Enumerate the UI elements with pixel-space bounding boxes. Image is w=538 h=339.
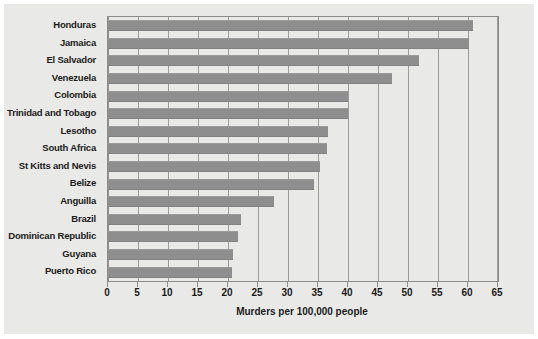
- category-label: Puerto Rico: [4, 262, 102, 280]
- x-axis-tick-labels: 05101520253035404550556065: [107, 288, 497, 302]
- category-axis-labels: HondurasJamaicaEl SalvadorVenezuelaColom…: [4, 16, 102, 280]
- bar-row: [108, 17, 498, 35]
- bar-row: [108, 246, 498, 264]
- category-label: Guyana: [4, 245, 102, 263]
- tick-label: 35: [311, 288, 322, 298]
- category-label: El Salvador: [4, 51, 102, 69]
- tick-label: 65: [491, 288, 502, 298]
- category-label: Colombia: [4, 86, 102, 104]
- category-label: Brazil: [4, 210, 102, 228]
- category-label: Lesotho: [4, 122, 102, 140]
- tick-label: 10: [161, 288, 172, 298]
- tick-label: 45: [371, 288, 382, 298]
- bar: [108, 179, 314, 190]
- bar-row: [108, 87, 498, 105]
- bar: [108, 108, 348, 119]
- bar: [108, 73, 392, 84]
- bar-row: [108, 140, 498, 158]
- tick-label: 30: [281, 288, 292, 298]
- tick-label: 50: [401, 288, 412, 298]
- bar-row: [108, 105, 498, 123]
- x-axis-title: Murders per 100,000 people: [107, 307, 497, 317]
- category-label: Anguilla: [4, 192, 102, 210]
- chart-panel: HondurasJamaicaEl SalvadorVenezuelaColom…: [4, 4, 534, 334]
- category-label: St Kitts and Nevis: [4, 157, 102, 175]
- plot-area: [107, 16, 499, 282]
- tick-label: 55: [431, 288, 442, 298]
- category-label: Honduras: [4, 16, 102, 34]
- bar: [108, 267, 232, 278]
- bar-row: [108, 52, 498, 70]
- bar-row: [108, 193, 498, 211]
- bar: [108, 55, 419, 66]
- bar: [108, 214, 241, 225]
- bar: [108, 20, 473, 31]
- bar-row: [108, 228, 498, 246]
- bar-row: [108, 35, 498, 53]
- category-label: South Africa: [4, 139, 102, 157]
- tick-label: 15: [191, 288, 202, 298]
- chart-figure: HondurasJamaicaEl SalvadorVenezuelaColom…: [0, 0, 538, 339]
- bar: [108, 161, 320, 172]
- bar-row: [108, 211, 498, 229]
- tick-label: 5: [134, 288, 140, 298]
- bar: [108, 38, 469, 49]
- horizontal-bar-chart: HondurasJamaicaEl SalvadorVenezuelaColom…: [4, 4, 534, 334]
- category-label: Dominican Republic: [4, 227, 102, 245]
- tick-label: 0: [104, 288, 110, 298]
- bar-row: [108, 70, 498, 88]
- category-label: Jamaica: [4, 34, 102, 52]
- bar-row: [108, 263, 498, 281]
- bar: [108, 231, 238, 242]
- bar-row: [108, 175, 498, 193]
- bar: [108, 249, 233, 260]
- bar: [108, 126, 328, 137]
- bar: [108, 196, 274, 207]
- bar-row: [108, 158, 498, 176]
- bar: [108, 143, 327, 154]
- category-label: Venezuela: [4, 69, 102, 87]
- tick-label: 25: [251, 288, 262, 298]
- category-label: Trinidad and Tobago: [4, 104, 102, 122]
- bar-row: [108, 123, 498, 141]
- bar: [108, 91, 348, 102]
- tick-label: 20: [221, 288, 232, 298]
- tick-label: 60: [461, 288, 472, 298]
- category-label: Belize: [4, 174, 102, 192]
- bar-series: [108, 17, 498, 281]
- tick-label: 40: [341, 288, 352, 298]
